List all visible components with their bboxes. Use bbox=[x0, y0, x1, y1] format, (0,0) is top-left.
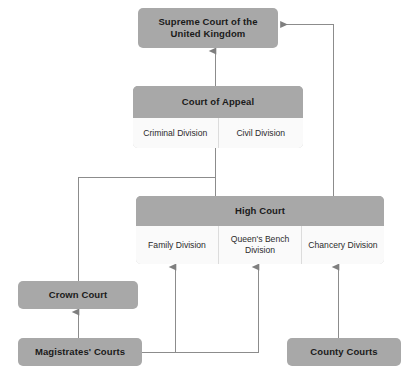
node-supreme-court-label-line2: United Kingdom bbox=[171, 28, 246, 39]
node-court-of-appeal-label: Court of Appeal bbox=[133, 86, 303, 118]
division-criminal[interactable]: Criminal Division bbox=[133, 118, 218, 148]
division-queens-bench-line1: Queen's Bench bbox=[231, 234, 290, 244]
division-family[interactable]: Family Division bbox=[136, 226, 218, 264]
court-hierarchy-diagram: Supreme Court of the United Kingdom Cour… bbox=[0, 0, 415, 390]
court-of-appeal-divisions: Criminal Division Civil Division bbox=[133, 118, 303, 148]
node-high-court-label: High Court bbox=[136, 196, 384, 226]
node-high-court[interactable]: High Court Family Division Queen's Bench… bbox=[136, 196, 384, 264]
node-county-courts-label: County Courts bbox=[287, 338, 401, 366]
node-county-courts[interactable]: County Courts bbox=[287, 338, 401, 366]
division-civil[interactable]: Civil Division bbox=[218, 118, 304, 148]
high-court-divisions: Family Division Queen's Bench Division C… bbox=[136, 226, 384, 264]
node-supreme-court-label: Supreme Court of the United Kingdom bbox=[138, 8, 278, 48]
node-magistrates-courts-label: Magistrates' Courts bbox=[18, 338, 142, 366]
node-supreme-court-label-line1: Supreme Court of the bbox=[158, 16, 257, 27]
node-supreme-court[interactable]: Supreme Court of the United Kingdom bbox=[138, 8, 278, 48]
division-queens-bench[interactable]: Queen's Bench Division bbox=[218, 226, 301, 264]
connector-layer bbox=[0, 0, 415, 390]
division-queens-bench-line2: Division bbox=[245, 245, 275, 255]
node-crown-court-label: Crown Court bbox=[18, 281, 138, 309]
node-magistrates-courts[interactable]: Magistrates' Courts bbox=[18, 338, 142, 366]
division-chancery[interactable]: Chancery Division bbox=[301, 226, 384, 264]
node-court-of-appeal[interactable]: Court of Appeal Criminal Division Civil … bbox=[133, 86, 303, 148]
node-crown-court[interactable]: Crown Court bbox=[18, 281, 138, 309]
